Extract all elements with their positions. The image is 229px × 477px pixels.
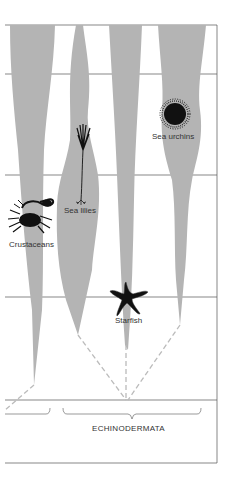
spindle-sea-lilies xyxy=(57,25,99,335)
evolution-spindle-diagram xyxy=(0,0,229,477)
brace-crustaceans xyxy=(5,408,50,414)
ancestry-lines xyxy=(5,325,180,410)
brace-echinodermata xyxy=(63,408,201,419)
label-starfish: Starfish xyxy=(115,316,142,325)
braces xyxy=(5,408,201,419)
spindles xyxy=(10,25,206,385)
label-sea-lilies: Sea lilies xyxy=(64,206,96,215)
label-crustaceans: Crustaceans xyxy=(9,240,54,249)
group-label-echinodermata: ECHINODERMATA xyxy=(92,424,165,433)
label-sea-urchins: Sea urchins xyxy=(152,132,194,141)
